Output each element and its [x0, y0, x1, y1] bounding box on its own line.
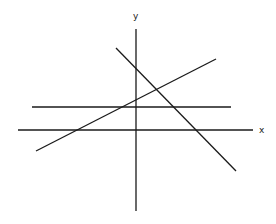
line-group [32, 48, 236, 171]
y-axis-label: y [133, 11, 139, 21]
rising-line [36, 59, 216, 151]
coordinate-diagram: x y [0, 0, 276, 224]
x-axis-label: x [259, 125, 265, 135]
falling-line [116, 48, 236, 171]
